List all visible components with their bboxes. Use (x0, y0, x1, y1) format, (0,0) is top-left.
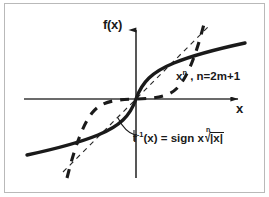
inverse-label-arg: (x) (144, 132, 158, 144)
nth-root-glyph: n√|x| (205, 131, 224, 145)
power-curve-label: xn , n=2m+1 (176, 71, 240, 83)
figure-root: f(x) x xn , n=2m+1 f-1(x) = sign xn√|x| (0, 0, 269, 197)
radical-radicand: |x| (210, 132, 224, 145)
inverse-curve-label: f-1(x) = sign xn√|x| (133, 131, 224, 145)
inverse-label-equals: = (158, 132, 171, 144)
x-axis-label: x (236, 102, 243, 115)
inverse-label-fn-exponent: -1 (137, 130, 144, 139)
radical-sign-icon: √ (205, 131, 211, 144)
plot-canvas (0, 0, 269, 197)
power-curve-label-condition: n=2m+1 (197, 70, 240, 82)
y-axis-label: f(x) (103, 18, 122, 31)
inverse-label-sign-term: sign x (171, 132, 204, 144)
power-curve-label-separator: , (187, 70, 197, 82)
